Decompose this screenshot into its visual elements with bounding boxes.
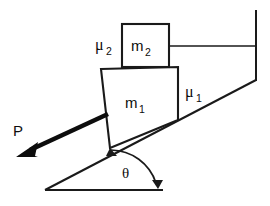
- applied-force-arrow: [16, 114, 108, 157]
- label-m2-subscript: 2: [145, 46, 151, 58]
- label-applied-force: P: [13, 122, 23, 139]
- force-arrow-shaft: [30, 114, 108, 150]
- angle-arc-head-lower: [152, 180, 163, 189]
- label-mu2-base: μ: [95, 36, 104, 54]
- label-mu2: μ 2: [95, 36, 112, 57]
- angle-arc: [106, 148, 163, 189]
- label-m2-base: m: [131, 37, 144, 54]
- inclined-plane-diagram: m 1 m 2 μ 1 μ 2 P θ: [0, 0, 270, 206]
- label-mu1-base: μ: [185, 83, 194, 101]
- label-m1-base: m: [125, 94, 138, 111]
- label-mu1-subscript: 1: [196, 92, 202, 104]
- force-arrow-head: [16, 142, 38, 157]
- physics-diagram-canvas: m 1 m 2 μ 1 μ 2 P θ: [0, 0, 270, 206]
- label-m1-subscript: 1: [139, 103, 145, 115]
- angle-arc-path: [111, 150, 156, 183]
- label-mu2-subscript: 2: [106, 45, 112, 57]
- label-mu1: μ 1: [185, 83, 202, 104]
- label-angle-theta: θ: [122, 165, 129, 181]
